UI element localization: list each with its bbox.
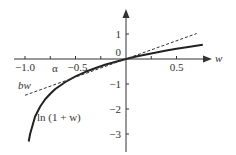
alpha-label: α: [52, 62, 58, 74]
y-tick-label: 1: [116, 28, 122, 40]
curve-label: ln (1 + w): [37, 111, 81, 124]
y-tick-label: 0: [116, 46, 122, 58]
y-axis-arrow-icon: [123, 9, 130, 18]
y-tick-label: −1: [109, 78, 121, 90]
x-tick-label: 0.5: [170, 61, 184, 73]
y-tick-label: −3: [109, 128, 121, 140]
x-axis-label: w: [215, 52, 223, 64]
y-tick-label: −2: [109, 103, 121, 115]
bw-label: bw: [18, 79, 32, 91]
x-axis-arrow-icon: [203, 56, 212, 63]
x-tick-label: −1.0: [15, 61, 35, 73]
chart-svg: −1.0−0.50.510−1−2−3 w α bw ln (1 + w): [0, 0, 236, 155]
ticks: −1.0−0.50.510−1−2−3: [15, 28, 184, 140]
